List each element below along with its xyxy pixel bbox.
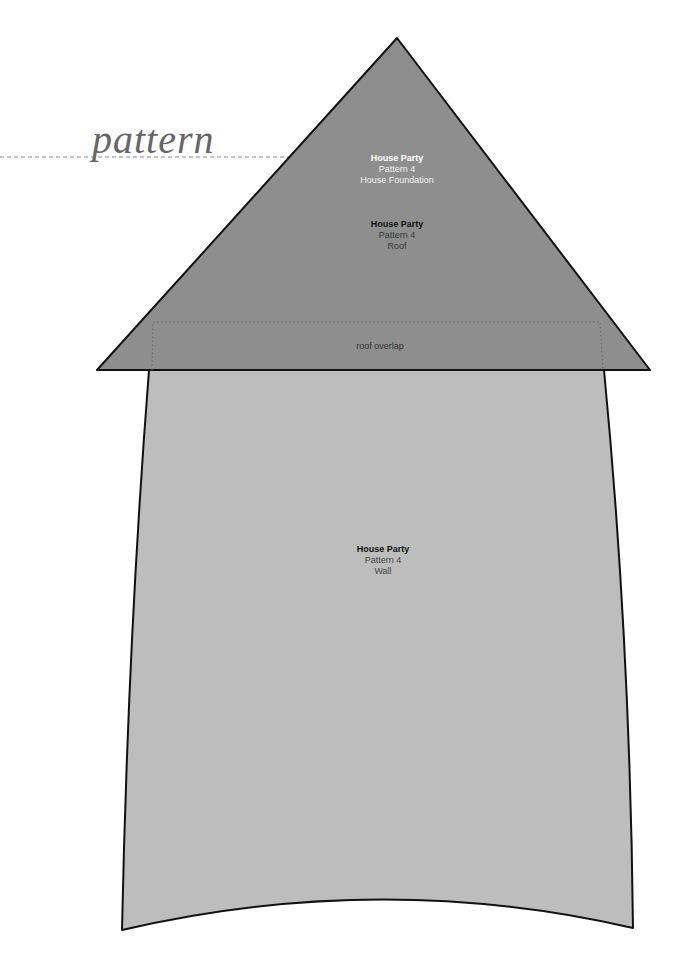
foundation-label: House Party Pattern 4 House Foundation — [297, 153, 497, 186]
wall-label: House Party Pattern 4 Wall — [283, 544, 483, 577]
roof-label: House Party Pattern 4 Roof — [297, 219, 497, 252]
roof-pattern-number: Pattern 4 — [297, 230, 497, 241]
roof-piece-name: Roof — [297, 241, 497, 252]
wall-piece-name: Wall — [283, 566, 483, 577]
foundation-piece-name: House Foundation — [297, 175, 497, 186]
pattern-heading: pattern — [92, 120, 215, 160]
wall-title: House Party — [283, 544, 483, 555]
wall-piece — [122, 370, 633, 930]
foundation-title: House Party — [297, 153, 497, 164]
foundation-pattern-number: Pattern 4 — [297, 164, 497, 175]
wall-pattern-number: Pattern 4 — [283, 555, 483, 566]
roof-overlap-label: roof overlap — [320, 341, 440, 351]
roof-title: House Party — [297, 219, 497, 230]
roof-piece — [97, 38, 650, 370]
